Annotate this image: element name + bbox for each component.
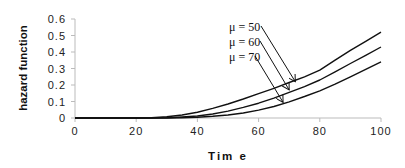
y-tick-label: 0 bbox=[59, 112, 66, 124]
series-line-1 bbox=[75, 32, 381, 118]
series-line-2 bbox=[75, 47, 381, 118]
annotation-label: μ = 60 bbox=[229, 35, 260, 49]
annotations: μ = 50μ = 60μ = 70 bbox=[229, 20, 295, 102]
annotation-arrow-icon bbox=[255, 56, 283, 102]
x-tick-label: 20 bbox=[129, 125, 143, 137]
y-tick-label: 0.3 bbox=[48, 63, 66, 75]
x-axis-ticks: 020406080100 bbox=[71, 118, 391, 137]
x-tick-label: 80 bbox=[313, 125, 327, 137]
series-line-3 bbox=[75, 62, 381, 118]
x-tick-label: 100 bbox=[370, 125, 391, 137]
y-axis-label: hazard function bbox=[17, 25, 29, 111]
x-tick-label: 40 bbox=[190, 125, 204, 137]
y-tick-label: 0.1 bbox=[48, 96, 66, 108]
series-lines bbox=[75, 32, 381, 118]
y-tick-label: 0.5 bbox=[48, 30, 66, 42]
annotation-arrow-icon bbox=[261, 26, 295, 82]
x-tick-label: 60 bbox=[251, 125, 265, 137]
y-tick-label: 0.4 bbox=[48, 46, 66, 58]
x-tick-label: 0 bbox=[71, 125, 78, 137]
y-tick-label: 0.6 bbox=[48, 13, 66, 25]
y-tick-label: 0.2 bbox=[48, 79, 66, 91]
annotation-label: μ = 50 bbox=[229, 20, 260, 34]
hazard-chart: 00.10.20.30.40.50.6 020406080100 μ = 50μ… bbox=[0, 0, 405, 168]
axes bbox=[75, 19, 381, 118]
x-axis-label: Tim e bbox=[208, 150, 248, 162]
y-axis-ticks: 00.10.20.30.40.50.6 bbox=[48, 13, 75, 124]
